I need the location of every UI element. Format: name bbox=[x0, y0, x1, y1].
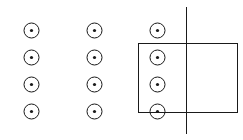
field-out-of-page-symbol bbox=[150, 77, 165, 92]
field-symbol-dot bbox=[93, 56, 96, 59]
field-symbol-dot bbox=[93, 83, 96, 86]
field-out-of-page-symbol bbox=[87, 23, 102, 38]
field-out-of-page-symbol bbox=[87, 104, 102, 119]
field-out-of-page-symbol bbox=[87, 50, 102, 65]
field-out-of-page-symbol bbox=[150, 50, 165, 65]
field-symbol-dot bbox=[156, 56, 159, 59]
field-symbol-dot bbox=[30, 110, 33, 113]
field-out-of-page-symbol bbox=[24, 23, 39, 38]
field-symbol-dot bbox=[93, 29, 96, 32]
field-out-of-page-symbol bbox=[24, 104, 39, 119]
field-out-of-page-symbol bbox=[24, 50, 39, 65]
field-symbol-dot bbox=[30, 56, 33, 59]
field-out-of-page-symbol bbox=[87, 77, 102, 92]
field-symbol-dot bbox=[30, 29, 33, 32]
field-symbol-dot bbox=[93, 110, 96, 113]
magnetic-field-grid bbox=[24, 23, 165, 119]
field-symbol-dot bbox=[30, 83, 33, 86]
field-out-of-page-symbol bbox=[150, 23, 165, 38]
field-out-of-page-symbol bbox=[24, 77, 39, 92]
field-symbol-dot bbox=[156, 29, 159, 32]
field-diagram bbox=[0, 0, 243, 140]
field-out-of-page-symbol bbox=[150, 104, 165, 119]
field-symbol-dot bbox=[156, 83, 159, 86]
